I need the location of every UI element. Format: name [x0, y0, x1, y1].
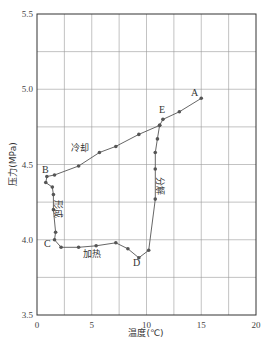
data-point-marker — [158, 124, 162, 128]
data-point-marker — [114, 145, 118, 149]
y-tick-label: 3.5 — [22, 310, 34, 320]
axis-ticks: 051015203.54.04.55.05.5 — [22, 9, 261, 330]
y-axis-label: 压力(MPa) — [7, 142, 18, 185]
annotation-cooling: 冷却 — [71, 142, 89, 153]
data-point-marker — [52, 193, 56, 197]
data-point-marker — [126, 247, 130, 251]
point-label-b: B — [42, 164, 49, 175]
data-point-marker — [153, 197, 157, 201]
data-point-marker — [153, 167, 157, 171]
data-point-marker — [199, 96, 203, 100]
data-point-marker — [161, 118, 165, 122]
annotation-heating: 加热 — [83, 248, 101, 259]
annotation-formation: 形成 — [53, 200, 64, 218]
data-point-marker — [77, 245, 81, 249]
data-point-marker — [137, 133, 141, 137]
x-tick-label: 0 — [35, 320, 40, 330]
data-point-marker — [51, 185, 55, 189]
x-tick-label: 15 — [197, 320, 207, 330]
data-point-marker — [153, 151, 157, 155]
data-point-marker — [98, 151, 102, 155]
point-label-c: C — [44, 238, 51, 249]
data-point-marker — [94, 244, 98, 248]
x-axis-label: 温度(℃) — [128, 327, 163, 338]
data-line — [46, 98, 202, 257]
data-point-marker — [45, 175, 49, 179]
data-point-marker — [59, 245, 63, 249]
data-point-marker — [178, 110, 182, 114]
data-point-marker — [54, 230, 58, 234]
data-point-marker — [77, 164, 81, 168]
data-point-marker — [53, 173, 57, 177]
y-tick-label: 4.5 — [22, 160, 34, 170]
point-label-e: E — [159, 104, 165, 115]
data-point-marker — [147, 248, 151, 252]
y-tick-label: 5.5 — [22, 9, 34, 19]
data-point-marker — [156, 137, 160, 141]
grid-lines — [37, 14, 256, 315]
point-label-d: D — [133, 257, 140, 268]
y-tick-label: 4.0 — [22, 235, 34, 245]
data-point-marker — [114, 241, 118, 245]
data-point-marker — [53, 238, 57, 242]
data-point-marker — [44, 181, 48, 185]
data-markers — [44, 96, 203, 259]
x-tick-label: 20 — [252, 320, 262, 330]
y-tick-label: 5.0 — [22, 84, 34, 94]
x-tick-label: 5 — [90, 320, 95, 330]
point-label-a: A — [191, 87, 199, 98]
pressure-temperature-chart: 051015203.54.04.55.05.5 A E B C D 冷却 加热 … — [0, 0, 265, 346]
annotation-decomposition: 分解 — [155, 177, 166, 195]
